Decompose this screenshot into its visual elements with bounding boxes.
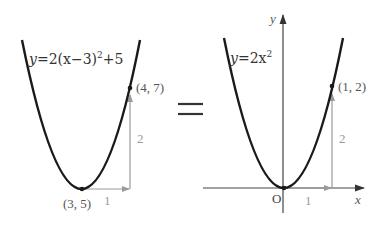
left-vertex-label: (3, 5): [63, 197, 91, 210]
left-vertex-point: [80, 187, 85, 192]
x-axis-label: x: [355, 193, 361, 206]
left-point-label: (4, 7): [136, 81, 164, 94]
origin-point: [282, 186, 287, 191]
right-graph: [203, 15, 364, 213]
y-axis-label: y: [270, 12, 276, 25]
left-run-label: 1: [104, 194, 111, 207]
right-run-label: 1: [305, 194, 312, 207]
diagram-canvas: [0, 0, 388, 225]
origin-label: O: [272, 192, 281, 205]
right-point-label: (1, 2): [338, 80, 366, 93]
left-point-4-7: [128, 86, 133, 91]
right-rise-label: 2: [339, 132, 346, 145]
left-equation-label: y=2(x−3)2+5: [29, 51, 123, 66]
right-point-1-2: [330, 84, 335, 89]
right-equation-label: y=2x2: [230, 50, 272, 65]
equals-sign: [178, 104, 203, 114]
left-rise-label: 2: [137, 132, 144, 145]
